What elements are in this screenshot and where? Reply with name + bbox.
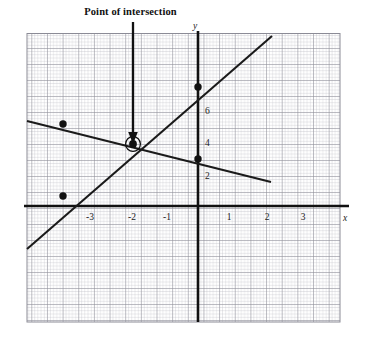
- y-axis-label: y: [192, 21, 198, 31]
- coordinate-plane: -3 -2 -1 1 2 3 6 4 2 x y: [0, 0, 365, 342]
- x-tick-label--3: -3: [86, 212, 94, 222]
- y-tick-label-6: 6: [205, 106, 210, 116]
- y-tick-label-4: 4: [205, 138, 210, 148]
- y-tick-label-2: 2: [205, 171, 210, 181]
- x-tick-label--2: -2: [128, 212, 136, 222]
- point-falling-left: [59, 120, 66, 127]
- grid-lines: [27, 34, 340, 323]
- point-falling-yint: [194, 155, 201, 162]
- graph-figure: Point of intersection -3 -2 -1 1 2 3 6 4…: [0, 0, 365, 342]
- x-axis-label: x: [342, 213, 348, 223]
- point-rising-left: [59, 192, 66, 199]
- x-tick-label--1: -1: [163, 212, 171, 222]
- point-rising-yint: [194, 83, 201, 90]
- x-tick-label-2: 2: [265, 212, 270, 222]
- x-tick-label-1: 1: [227, 212, 232, 222]
- x-tick-label-3: 3: [301, 212, 306, 222]
